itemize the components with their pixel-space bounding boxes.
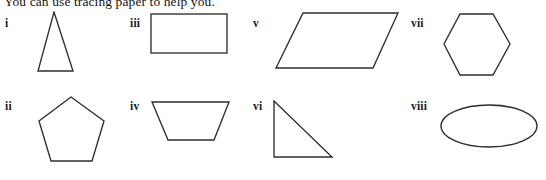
shape-label-iv: iv xyxy=(130,100,139,112)
hexagon-outline xyxy=(444,14,510,75)
right-triangle-outline xyxy=(274,101,332,157)
pentagon-shape xyxy=(36,95,112,171)
shape-label-v: v xyxy=(253,17,259,29)
instruction-text: You can use tracing paper to help you. xyxy=(4,0,215,9)
shape-label-i: i xyxy=(5,17,8,29)
shape-label-viii: viii xyxy=(411,100,427,112)
shapes-worksheet: You can use tracing paper to help you. i… xyxy=(0,0,546,180)
triangle-outline xyxy=(38,12,73,71)
hexagon-shape xyxy=(441,10,519,84)
trapezium-outline xyxy=(152,102,229,140)
shape-label-iii: iii xyxy=(130,17,140,29)
parallelogram-outline xyxy=(276,13,398,68)
parallelogram-shape xyxy=(272,8,404,76)
pentagon-outline xyxy=(39,97,104,161)
shape-label-vi: vi xyxy=(253,100,262,112)
ellipse-outline xyxy=(441,105,537,147)
rectangle-shape xyxy=(148,11,234,61)
triangle-shape xyxy=(36,11,112,75)
trapezium-shape xyxy=(148,95,238,155)
rectangle-outline xyxy=(151,14,227,53)
shape-label-vii: vii xyxy=(411,17,424,29)
right-triangle-shape xyxy=(268,95,352,167)
ellipse-shape xyxy=(436,98,542,156)
shape-label-ii: ii xyxy=(5,100,12,112)
